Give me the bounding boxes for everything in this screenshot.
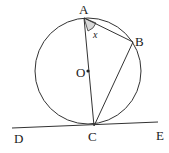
label-E: E <box>156 128 164 143</box>
tangent-DE <box>12 122 158 128</box>
chord-BC <box>94 42 133 126</box>
label-B: B <box>135 34 144 49</box>
label-D: D <box>14 131 23 146</box>
label-O: O <box>76 65 85 80</box>
label-angle-x: x <box>92 29 98 40</box>
geometry-diagram: A B C O D E x <box>0 0 169 153</box>
center-point <box>86 69 89 72</box>
label-C: C <box>88 129 97 144</box>
label-A: A <box>79 2 89 17</box>
